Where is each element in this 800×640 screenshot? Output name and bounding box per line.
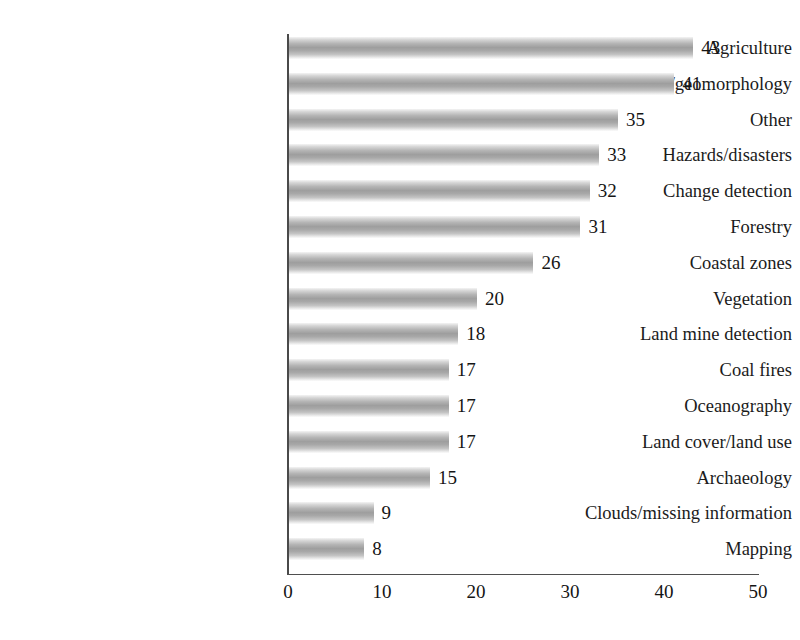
bar-chart: Agriculture43Geology/geomorphology41Othe… — [0, 0, 800, 640]
bar — [289, 252, 533, 274]
plot-area: Agriculture43Geology/geomorphology41Othe… — [0, 0, 800, 640]
bar-value-label: 17 — [457, 359, 476, 381]
bar-row: Forestry31 — [0, 216, 800, 238]
x-tick-label: 10 — [373, 580, 392, 604]
category-label: Oceanography — [520, 395, 800, 417]
bar-value-label: 31 — [588, 216, 607, 238]
bar-row: Hazards/disasters33 — [0, 144, 800, 166]
bar-value-label: 17 — [457, 395, 476, 417]
bar — [289, 323, 458, 345]
category-label: Archaeology — [520, 467, 800, 489]
category-label: Land mine detection — [520, 323, 800, 345]
bar-row: Land cover/land use17 — [0, 431, 800, 453]
category-label: Coastal zones — [520, 252, 800, 274]
bar-value-label: 17 — [457, 431, 476, 453]
bar — [289, 538, 364, 560]
x-axis-line — [287, 574, 759, 575]
x-tick-label: 20 — [467, 580, 486, 604]
category-label: Clouds/missing information — [520, 502, 800, 524]
bar-row: Geology/geomorphology41 — [0, 73, 800, 95]
bar-row: Coal fires17 — [0, 359, 800, 381]
bar-row: Agriculture43 — [0, 37, 800, 59]
bar-value-label: 26 — [541, 252, 560, 274]
bar-value-label: 33 — [607, 144, 626, 166]
category-label: Vegetation — [520, 288, 800, 310]
x-tick-label: 30 — [561, 580, 580, 604]
bar-row: Coastal zones26 — [0, 252, 800, 274]
bar-row: Land mine detection18 — [0, 323, 800, 345]
bar — [289, 467, 430, 489]
bar — [289, 216, 580, 238]
bar — [289, 73, 674, 95]
bar-row: Oceanography17 — [0, 395, 800, 417]
bar — [289, 502, 374, 524]
category-label: Coal fires — [520, 359, 800, 381]
bar-value-label: 8 — [372, 538, 382, 560]
bar-value-label: 15 — [438, 467, 457, 489]
bar-value-label: 9 — [382, 502, 392, 524]
bar — [289, 359, 449, 381]
bar-row: Clouds/missing information9 — [0, 502, 800, 524]
bar-value-label: 20 — [485, 288, 504, 310]
bar — [289, 109, 618, 131]
bar-row: Mapping8 — [0, 538, 800, 560]
bar-value-label: 32 — [598, 180, 617, 202]
bar — [289, 180, 590, 202]
bar-value-label: 35 — [626, 109, 645, 131]
bar-value-label: 41 — [682, 73, 701, 95]
bar-value-label: 18 — [466, 323, 485, 345]
category-label: Land cover/land use — [520, 431, 800, 453]
x-tick-label: 50 — [749, 580, 768, 604]
bar — [289, 288, 477, 310]
category-label: Mapping — [520, 538, 800, 560]
bar — [289, 395, 449, 417]
bar-row: Archaeology15 — [0, 467, 800, 489]
x-tick-label: 40 — [655, 580, 674, 604]
bar-row: Other35 — [0, 109, 800, 131]
bar-row: Change detection32 — [0, 180, 800, 202]
bar — [289, 37, 693, 59]
x-tick-label: 0 — [283, 580, 293, 604]
bar — [289, 431, 449, 453]
bar-value-label: 43 — [701, 37, 720, 59]
bar — [289, 144, 599, 166]
bar-row: Vegetation20 — [0, 288, 800, 310]
